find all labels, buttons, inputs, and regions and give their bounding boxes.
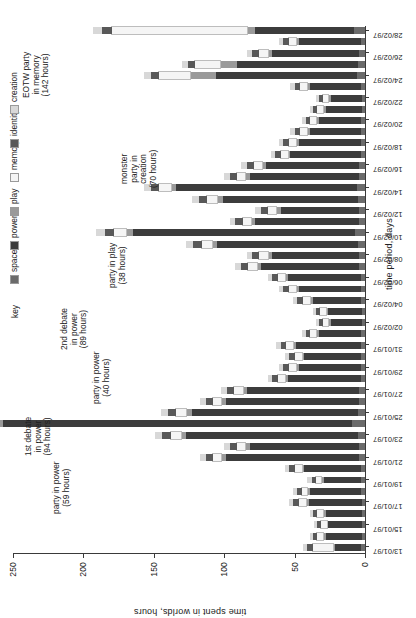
bar-segment-play [296, 140, 299, 147]
legend-label: power [10, 215, 19, 238]
bar-segment-identity [283, 364, 289, 371]
bar-segment-play [328, 319, 331, 326]
x-tick-label: 15/01/97 [373, 525, 403, 534]
bar-segment-memory [159, 72, 190, 79]
x-tick-mark [365, 434, 369, 435]
y-tick-label: 150 [149, 562, 159, 577]
bar-segment-memory [237, 443, 245, 450]
bar-segment-memory [259, 50, 267, 57]
x-tick-mark [365, 75, 369, 76]
bar-segment-space [361, 364, 365, 371]
bar-19/02/97 [13, 128, 365, 135]
bar-segment-memory [317, 106, 323, 113]
legend-item-identity[interactable]: identity [10, 109, 19, 148]
bar-segment-power [176, 184, 356, 191]
bar-segment-identity [313, 533, 317, 540]
x-tick-label: 25/01/97 [373, 413, 403, 422]
bar-segment-identity [313, 106, 317, 113]
y-tick-label: 100 [219, 562, 229, 577]
bar-14/02/97 [13, 184, 365, 191]
bar-29/01/97 [13, 364, 365, 371]
x-tick-mark [365, 232, 369, 233]
bar-segment-identity [293, 499, 299, 506]
bar-segment-play [217, 196, 223, 203]
bar-segment-space [361, 465, 365, 472]
bar-segment-power [299, 286, 361, 293]
bar-24/02/97 [13, 72, 365, 79]
x-tick-label: 17/01/97 [373, 502, 403, 511]
annotation-party-in-power-59: party in power (59 hours) [52, 461, 71, 514]
bar-11/02/97 [13, 218, 365, 225]
legend-swatch-memory [10, 173, 19, 182]
x-tick-mark [365, 142, 369, 143]
legend-item-creation[interactable]: creation [10, 72, 19, 114]
annotation-first-debate-94: 1st debate in power (94 hours) [24, 417, 53, 456]
bar-segment-identity [319, 95, 323, 102]
bar-segment-space [358, 432, 365, 439]
bar-segment-identity [206, 454, 213, 461]
bar-segment-memory [289, 364, 296, 371]
bar-segment-space [362, 499, 365, 506]
x-tick-label: 06/02/97 [373, 278, 403, 287]
bar-segment-identity [162, 432, 170, 439]
bar-segment-play [323, 510, 326, 517]
bar-segment-play [302, 465, 305, 472]
bar-segment-creation [285, 353, 289, 360]
bar-segment-power [3, 420, 352, 427]
bar-17/02/97 [13, 151, 365, 158]
bar-segment-creation [221, 387, 227, 394]
bar-segment-memory [295, 465, 302, 472]
bar-segment-identity [289, 353, 295, 360]
y-tick-mark [295, 553, 296, 558]
bar-segment-power [290, 151, 360, 158]
bar-segment-power [261, 263, 360, 270]
x-tick-label: 24/02/97 [373, 76, 403, 85]
x-tick-mark [365, 524, 369, 525]
bar-segment-play [220, 61, 237, 68]
bar-segment-play [243, 387, 247, 394]
bar-segment-space [362, 106, 365, 113]
bar-segment-space [359, 263, 365, 270]
bar-28/02/97 [13, 27, 365, 34]
bar-segment-play [323, 533, 326, 540]
bar-segment-memory [286, 342, 293, 349]
bar-20/02/97 [13, 117, 365, 124]
bar-segment-memory [237, 173, 245, 180]
bar-segment-space [358, 241, 365, 248]
bar-segment-power [331, 95, 362, 102]
legend-item-power[interactable]: power [10, 215, 19, 250]
legend-item-play[interactable]: play [10, 189, 19, 216]
bar-segment-space [359, 454, 365, 461]
bar-segment-creation [255, 207, 261, 214]
bar-segment-creation [316, 319, 319, 326]
x-tick-mark [365, 479, 369, 480]
annotation-monster-party-70: monster party in creation (70 hours) [120, 150, 158, 188]
bar-segment-identity [313, 510, 317, 517]
bar-27/01/97 [13, 387, 365, 394]
bar-segment-play [307, 488, 310, 495]
x-tick-label: 29/01/97 [373, 368, 403, 377]
x-tick-label: 19/01/97 [373, 480, 403, 489]
bar-21/01/97 [13, 454, 365, 461]
legend-item-space[interactable]: space [10, 250, 19, 284]
bar-segment-space [361, 297, 365, 304]
bar-segment-memory [195, 61, 220, 68]
annotation-second-debate-89: 2nd debate in power (89 hours) [60, 308, 89, 350]
bar-segment-creation [290, 83, 294, 90]
bar-segment-identity [275, 151, 281, 158]
bar-segment-power [133, 229, 355, 236]
bar-segment-power [226, 398, 360, 405]
bar-segment-creation [235, 263, 241, 270]
bar-23/01/97 [13, 432, 365, 439]
x-tick-label: 31/01/97 [373, 345, 403, 354]
bar-segment-memory [248, 263, 256, 270]
bar-segment-play [245, 443, 249, 450]
bar-segment-power [186, 432, 358, 439]
bar-segment-power [310, 128, 361, 135]
bar-segment-power [326, 510, 363, 517]
bar-21/02/97 [13, 106, 365, 113]
annotation-party-in-power-40: party in power (40 hours) [92, 351, 111, 404]
bar-segment-power [272, 50, 359, 57]
bar-segment-play [181, 432, 187, 439]
x-tick-label: 27/01/97 [373, 390, 403, 399]
